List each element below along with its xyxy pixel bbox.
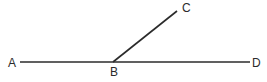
geometry-canvas <box>0 0 267 82</box>
point-label-c: C <box>182 2 191 14</box>
point-label-a: A <box>8 57 16 69</box>
segment-BC-line <box>113 11 177 62</box>
angle-diagram: A B C D <box>0 0 267 82</box>
point-label-b: B <box>110 66 118 78</box>
point-label-d: D <box>252 57 261 69</box>
